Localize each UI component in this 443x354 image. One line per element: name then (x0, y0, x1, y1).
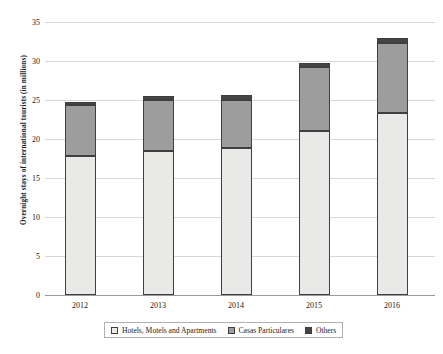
y-axis-tick-label: 25 (10, 96, 40, 105)
bar-segment[interactable] (65, 102, 96, 106)
bar-segment[interactable] (377, 113, 408, 295)
plot-area: 20122013201420152016 (45, 22, 435, 295)
legend-item[interactable]: Casas Particulares (228, 326, 294, 335)
bar-segment[interactable] (65, 156, 96, 295)
y-axis-tick-label: 20 (10, 135, 40, 144)
bar-group[interactable] (221, 22, 252, 295)
legend-item-label: Casas Particulares (239, 326, 294, 335)
y-axis-tick-label: 10 (10, 213, 40, 222)
bar-segment[interactable] (221, 95, 252, 100)
x-axis-tick-label: 2014 (206, 301, 266, 310)
x-axis-tick-label: 2012 (50, 301, 110, 310)
y-axis-tick-label: 0 (10, 291, 40, 300)
bar-segment[interactable] (377, 38, 408, 43)
bar-segment[interactable] (221, 100, 252, 148)
y-axis-tick-label: 5 (10, 252, 40, 261)
bar-segment[interactable] (143, 96, 174, 100)
stacked-bar-chart: Overnight stays of international tourist… (0, 0, 443, 354)
legend-item-label: Others (316, 326, 336, 335)
x-axis-tick-label: 2013 (128, 301, 188, 310)
y-axis-tick-labels: 05101520253035 (6, 22, 40, 295)
bar-group[interactable] (143, 22, 174, 295)
legend-swatch-icon (305, 327, 312, 334)
y-axis-tick-label: 35 (10, 18, 40, 27)
bar-segment[interactable] (299, 67, 330, 131)
bar-segment[interactable] (221, 148, 252, 295)
bar-group[interactable] (377, 22, 408, 295)
legend-item[interactable]: Others (305, 326, 336, 335)
legend-swatch-icon (111, 327, 118, 334)
chart-legend: Hotels, Motels and ApartmentsCasas Parti… (104, 322, 343, 338)
bar-group[interactable] (65, 22, 96, 295)
bar-segment[interactable] (65, 105, 96, 156)
y-axis-tick-label: 15 (10, 174, 40, 183)
legend-item-label: Hotels, Motels and Apartments (122, 326, 217, 335)
x-axis-tick-label: 2016 (362, 301, 422, 310)
bar-segment[interactable] (299, 63, 330, 68)
bar-segment[interactable] (143, 100, 174, 151)
y-axis-tick-label: 30 (10, 57, 40, 66)
legend-swatch-icon (228, 327, 235, 334)
x-axis-tick-label: 2015 (284, 301, 344, 310)
bar-segment[interactable] (377, 43, 408, 113)
legend-item[interactable]: Hotels, Motels and Apartments (111, 326, 217, 335)
bar-segment[interactable] (299, 131, 330, 295)
bar-group[interactable] (299, 22, 330, 295)
bar-segment[interactable] (143, 151, 174, 295)
axis-baseline (45, 295, 435, 296)
